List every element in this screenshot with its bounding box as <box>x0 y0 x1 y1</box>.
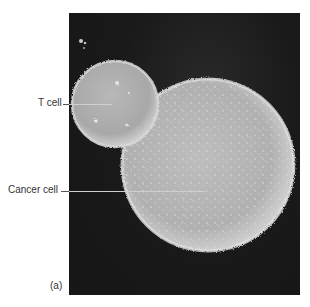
t-cell-leader-line-inner <box>69 104 112 105</box>
micrograph-illustration <box>69 13 300 295</box>
cancer-cell-leader-line <box>61 191 69 192</box>
t-cell-label: T cell <box>38 98 62 108</box>
cancer-cell-label: Cancer cell <box>8 185 58 195</box>
sem-micrograph <box>69 13 300 295</box>
cancer-cell-leader-line-inner <box>69 191 205 192</box>
panel-label: (a) <box>50 281 62 291</box>
debris <box>79 39 86 49</box>
